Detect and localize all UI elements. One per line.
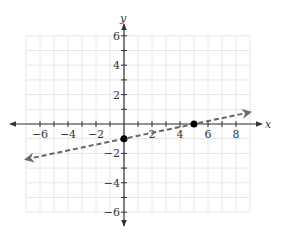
x-axis-label: x xyxy=(265,118,272,131)
x-tick-label: 2 xyxy=(149,128,156,141)
x-tick-label: −4 xyxy=(60,128,76,141)
y-tick-label: −6 xyxy=(104,206,120,219)
y-intercept-point xyxy=(121,135,128,142)
y-tick-label: −2 xyxy=(104,147,120,160)
y-tick-label: 4 xyxy=(113,59,120,72)
x-tick-label: −2 xyxy=(88,128,104,141)
x-tick-label: −6 xyxy=(32,128,48,141)
y-axis-label: y xyxy=(119,12,127,25)
x-intercept-point xyxy=(191,121,198,128)
x-tick-label: 4 xyxy=(177,128,184,141)
axes xyxy=(10,24,262,226)
x-tick-label: 8 xyxy=(233,128,240,141)
x-tick-label: 6 xyxy=(205,128,212,141)
coordinate-plane: −6−4−22468642−2−4−6 x y xyxy=(0,0,284,233)
y-tick-label: 6 xyxy=(113,30,120,43)
y-tick-label: 2 xyxy=(113,89,120,102)
y-tick-label: −4 xyxy=(104,177,120,190)
